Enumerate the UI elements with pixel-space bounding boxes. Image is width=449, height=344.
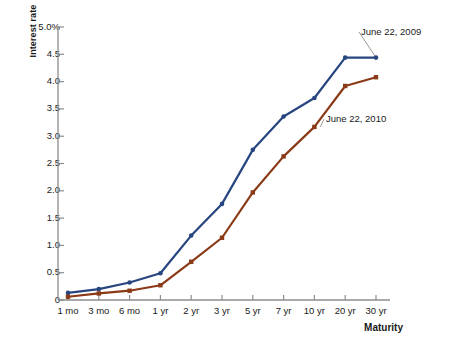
data-point-marker	[312, 125, 316, 129]
annotation-june-22-2010: June 22, 2010	[326, 113, 386, 124]
annotation-leader-2010	[320, 119, 324, 127]
data-point-marker	[97, 287, 102, 292]
data-point-marker	[66, 295, 70, 299]
data-point-marker	[251, 190, 255, 194]
data-point-marker	[158, 271, 163, 276]
data-point-marker	[281, 154, 285, 158]
data-point-marker	[343, 84, 347, 88]
data-point-marker	[220, 236, 224, 240]
data-point-marker	[97, 291, 101, 295]
annotation-june-22-2009: June 22, 2009	[361, 26, 421, 37]
data-point-marker	[374, 75, 378, 79]
data-point-marker	[127, 280, 132, 285]
data-point-marker	[127, 289, 131, 293]
data-point-marker	[66, 291, 71, 296]
data-point-marker	[220, 202, 225, 207]
data-point-marker	[189, 260, 193, 264]
data-point-marker	[343, 55, 348, 60]
series-line-june-22-2009	[68, 58, 376, 293]
series-line-june-22-2010	[68, 77, 376, 296]
data-point-marker	[251, 148, 256, 153]
data-point-marker	[281, 114, 286, 119]
data-point-marker	[189, 233, 194, 238]
yield-curve-chart: Interest rate 00.51.01.52.02.53.03.54.04…	[0, 0, 449, 344]
data-point-marker	[312, 96, 317, 101]
plot-area	[0, 0, 449, 344]
data-point-marker	[374, 55, 379, 60]
data-point-marker	[158, 283, 162, 287]
